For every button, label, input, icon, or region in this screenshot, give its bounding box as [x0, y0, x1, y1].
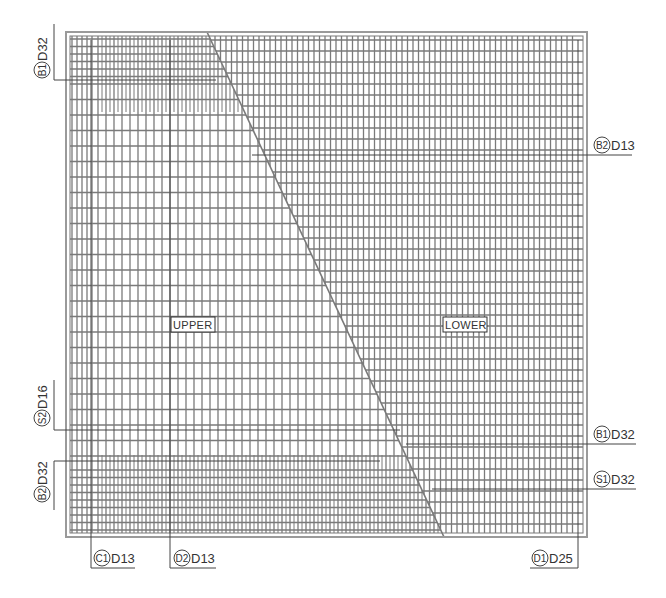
- svg-text:UPPER: UPPER: [173, 319, 212, 331]
- rebar-layout-drawing: B1D32B2D13S2D16B1D32B2D32S1D32C1D13D2D13…: [0, 0, 666, 598]
- bar-mark: D2: [176, 553, 189, 564]
- bar-mark: S2: [37, 411, 48, 424]
- bar-size: D32: [611, 427, 635, 442]
- bar-size: D32: [35, 461, 50, 485]
- bar-size: D32: [611, 472, 635, 487]
- region-label-upper: UPPER: [171, 317, 215, 332]
- callout-label: S2D16: [34, 385, 50, 426]
- region-label-lower: LOWER: [443, 317, 487, 332]
- bar-mark: S1: [596, 474, 609, 485]
- callout-label: D2D13: [174, 550, 215, 566]
- bar-size: D32: [35, 37, 50, 61]
- callout-label: D1D25: [532, 550, 573, 566]
- bar-mark: D1: [534, 553, 547, 564]
- callout-label: B1D32: [594, 426, 635, 442]
- bar-size: D25: [549, 551, 573, 566]
- bar-mark: C1: [96, 553, 109, 564]
- callout-d2-bottom: D2D13: [170, 40, 216, 568]
- callout-label: S1D32: [594, 471, 635, 487]
- bar-mark: B1: [596, 429, 609, 440]
- bar-mark: B1: [37, 63, 48, 76]
- callout-label: B2D32: [34, 461, 50, 502]
- bar-size: D13: [611, 138, 635, 153]
- bar-size: D16: [35, 385, 50, 409]
- callout-label: B2D13: [594, 137, 635, 153]
- callout-label: C1D13: [94, 550, 135, 566]
- callout-b2-right: B2D13: [252, 137, 635, 155]
- callout-s2-left: S2D16: [34, 380, 400, 430]
- bar-mark: B2: [37, 487, 48, 500]
- bar-size: D13: [111, 551, 135, 566]
- svg-text:LOWER: LOWER: [445, 319, 487, 331]
- bar-size: D13: [191, 551, 215, 566]
- callout-label: B1D32: [34, 37, 50, 78]
- bar-mark: B2: [596, 140, 609, 151]
